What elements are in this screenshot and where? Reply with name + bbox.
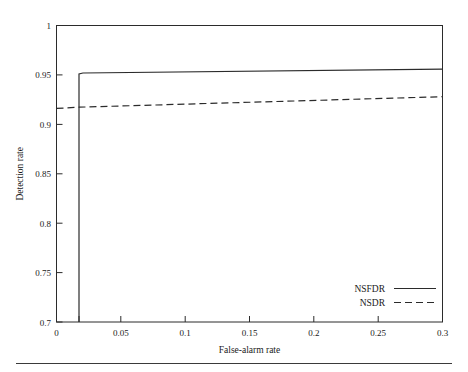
- x-tick-label-0: 0: [54, 328, 59, 338]
- chart-legend: NSFDR NSDR: [354, 284, 436, 308]
- legend-label-nsfdr: NSFDR: [354, 284, 385, 294]
- chart-canvas: 1 0.95 0.9 0.85 0.8 0.75 0.7 0 0.05 0.1 …: [0, 0, 468, 372]
- x-tick-label-3: 0.15: [242, 328, 258, 338]
- x-tick-label-6: 0.3: [437, 328, 449, 338]
- y-axis-tick-labels: 1 0.95 0.9 0.85 0.8 0.75 0.7: [35, 21, 51, 328]
- x-axis-ticks: [57, 316, 443, 322]
- y-axis-title: Detection rate: [15, 147, 25, 201]
- legend-label-nsdr: NSDR: [360, 298, 386, 308]
- x-tick-label-2: 0.1: [180, 328, 191, 338]
- y-tick-label-6: 1: [47, 21, 52, 31]
- roc-chart-figure: 1 0.95 0.9 0.85 0.8 0.75 0.7 0 0.05 0.1 …: [0, 0, 468, 372]
- y-axis-ticks: [57, 26, 63, 323]
- footer-divider: [16, 363, 452, 364]
- y-tick-label-0: 0.7: [40, 318, 52, 328]
- y-tick-label-3: 0.85: [35, 169, 51, 179]
- x-axis-tick-labels: 0 0.05 0.1 0.15 0.2 0.25 0.3: [54, 328, 448, 338]
- x-tick-label-5: 0.25: [370, 328, 386, 338]
- x-tick-label-4: 0.2: [308, 328, 319, 338]
- x-axis-title: False-alarm rate: [219, 345, 280, 355]
- x-tick-label-1: 0.05: [113, 328, 129, 338]
- series-line-nsfdr: [79, 69, 443, 322]
- y-tick-label-5: 0.95: [35, 70, 51, 80]
- y-tick-label-4: 0.9: [40, 120, 52, 130]
- series-line-nsdr: [57, 97, 443, 109]
- y-tick-label-2: 0.8: [40, 219, 52, 229]
- y-tick-label-1: 0.75: [35, 268, 51, 278]
